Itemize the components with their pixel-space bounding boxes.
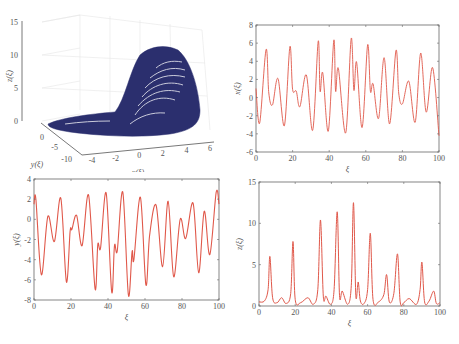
z-series-panel: 020406080100051015ξz(ξ) xyxy=(0,0,459,344)
y-tick-label: 0 xyxy=(252,302,256,311)
x-tick-label: 20 xyxy=(291,308,299,317)
x-tick-label: 80 xyxy=(400,308,408,317)
x-tick-label: 100 xyxy=(434,308,446,317)
x-axis-label: ξ xyxy=(348,319,352,328)
y-tick-label: 5 xyxy=(252,261,256,270)
z-series-plot: 020406080100051015ξz(ξ) xyxy=(0,0,459,344)
y-tick-label: 15 xyxy=(248,178,256,187)
x-tick-label: 40 xyxy=(327,308,335,317)
x-tick-label: 60 xyxy=(364,308,372,317)
y-axis-label: z(ξ) xyxy=(235,238,244,251)
axes-box xyxy=(259,182,440,306)
x-tick-label: 0 xyxy=(257,308,261,317)
y-tick-label: 10 xyxy=(248,219,256,228)
